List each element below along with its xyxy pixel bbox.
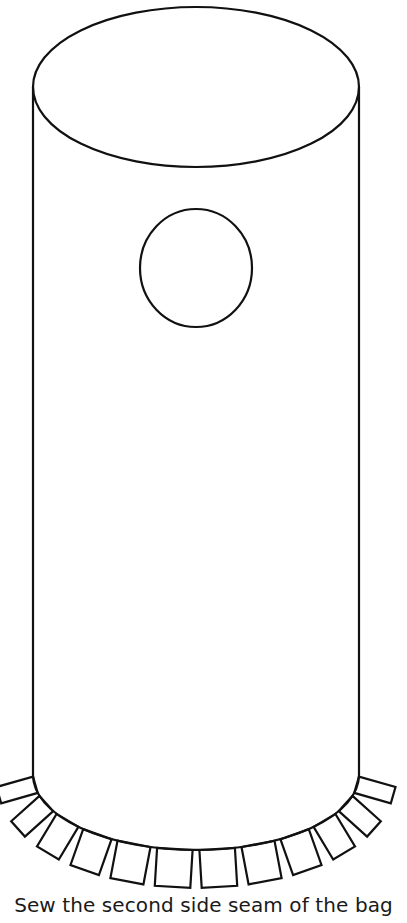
bottom-tab <box>280 829 321 875</box>
bottom-tab <box>71 829 112 875</box>
circle-hole <box>140 209 252 327</box>
bottom-tab <box>110 841 150 885</box>
top-opening-ellipse <box>33 7 359 167</box>
bag-diagram <box>0 0 407 923</box>
bottom-arc <box>33 775 359 850</box>
bottom-tabs <box>0 777 396 888</box>
bottom-tab <box>354 777 395 804</box>
bottom-tab <box>199 848 237 888</box>
bottom-tab <box>242 841 282 885</box>
bottom-tab <box>0 777 38 804</box>
bottom-tab <box>155 848 193 888</box>
caption-text: Sew the second side seam of the bag <box>0 893 407 917</box>
